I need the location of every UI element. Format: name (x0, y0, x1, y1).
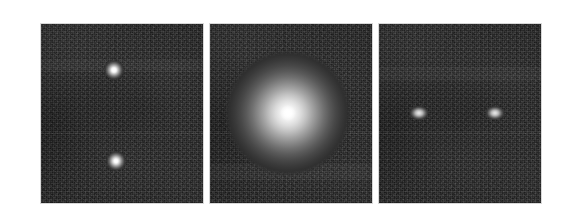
image-panel-center[interactable] (209, 23, 373, 204)
detector-noise-right (379, 24, 541, 203)
panel-row (40, 23, 542, 204)
image-panel-left[interactable] (40, 23, 204, 204)
detector-noise-left (41, 24, 203, 203)
image-panel-right[interactable] (378, 23, 542, 204)
detector-noise-center (210, 24, 372, 203)
figure-canvas (0, 0, 561, 223)
